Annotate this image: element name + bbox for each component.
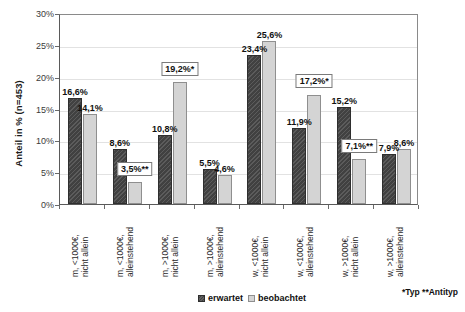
x-axis-label-line: w, >1000€, [341,236,351,277]
x-axis-category-label-1: m, <1000€,alleinstehend [116,227,135,277]
x-axis-tick-mark [104,205,105,209]
y-axis-tick-label: 20% [12,73,54,83]
gridline [60,47,417,48]
legend: erwartet beobachtet [198,293,306,303]
legend-swatch-erwartet-icon [198,295,205,302]
legend-label-beobachtet: beobachtet [258,293,306,303]
x-axis-category-label-4: w, <1000€,nicht allein [251,236,270,277]
x-axis-category-label-6: w, >1000€,nicht allein [341,236,360,277]
x-axis-tick-mark [239,205,240,209]
y-axis-tick-label: 30% [12,9,54,19]
y-axis-tick-label: 15% [12,105,54,115]
value-label-beobachtet-1: 3,5%** [117,162,153,176]
chart-footnote: *Typ **Antityp [402,287,458,297]
bar-erwartet-7 [382,154,396,204]
bar-erwartet-5 [292,128,306,204]
x-axis-label-line: nicht allein [81,234,91,277]
x-axis-label-line: nicht allein [350,236,360,277]
x-axis-label-line: nicht allein [171,234,181,277]
x-axis-label-line: w, >1000€, [386,227,396,277]
x-axis-category-label-5: w, <1000€,alleinstehend [296,227,315,277]
bar-chart: Anteil in % (n=453) 0%5%10%15%20%25%30% … [0,0,465,312]
bar-erwartet-4 [247,55,261,204]
legend-label-erwartet: erwartet [208,293,243,303]
x-axis-category-label-7: w, >1000€,alleinstehend [386,227,405,277]
bar-beobachtet-4 [262,41,276,204]
bar-erwartet-1 [113,149,127,204]
bar-erwartet-3 [203,169,217,204]
gridline [60,111,417,112]
x-axis-label-line: alleinstehend [305,227,315,277]
value-label-erwartet-1: 8,6% [110,138,131,148]
value-label-erwartet-4: 23,4% [242,44,268,54]
legend-item-beobachtet: beobachtet [248,293,306,303]
x-axis-label-line: w, <1000€, [251,236,261,277]
value-label-beobachtet-4: 25,6% [257,30,283,40]
y-axis-tick-label: 5% [12,168,54,178]
bar-beobachtet-0 [83,114,97,204]
x-axis-tick-mark [283,205,284,209]
bar-erwartet-0 [68,98,82,204]
x-axis-tick-mark [418,205,419,209]
value-label-erwartet-2: 10,8% [152,124,178,134]
bar-beobachtet-2 [173,82,187,204]
x-axis-label-line: alleinstehend [395,227,405,277]
x-axis-label-line: nicht allein [260,236,270,277]
y-axis-tick-label: 10% [12,136,54,146]
y-axis-tick-label: 0% [12,200,54,210]
value-label-beobachtet-7: 8,6% [394,138,415,148]
x-axis-label-line: w, <1000€, [296,227,306,277]
bar-beobachtet-3 [218,175,232,204]
value-label-erwartet-5: 11,9% [287,117,312,127]
y-axis-tick-label: 25% [12,41,54,51]
value-label-beobachtet-5: 17,2%* [296,74,333,88]
plot-area: 16,6%14,1%8,6%3,5%**10,8%19,2%*5,5%4,6%2… [59,14,418,205]
value-label-erwartet-6: 15,2% [331,96,357,106]
bar-beobachtet-5 [307,95,321,205]
value-label-beobachtet-2: 19,2%* [161,62,198,76]
value-label-erwartet-0: 16,6% [62,87,88,97]
value-label-beobachtet-0: 14,1% [77,103,103,113]
bar-beobachtet-1 [128,182,142,204]
x-axis-label-line: alleinstehend [126,227,136,277]
x-axis-label-line: alleinstehend [216,227,226,277]
x-axis-tick-mark [59,205,60,209]
x-axis-tick-mark [194,205,195,209]
bar-erwartet-2 [158,135,172,204]
gridline [60,79,417,80]
y-axis-title: Anteil in % (n=453) [13,44,24,204]
x-axis-category-label-3: m, >1000€,alleinstehend [206,227,225,277]
x-axis-tick-mark [328,205,329,209]
x-axis-category-label-0: m, <1000€,nicht allein [71,234,90,277]
bar-beobachtet-7 [397,149,411,204]
bar-erwartet-6 [337,107,351,204]
value-label-beobachtet-6: 7,1%** [341,139,377,153]
legend-swatch-beobachtet-icon [248,295,255,302]
x-axis-tick-mark [149,205,150,209]
x-axis-tick-mark [373,205,374,209]
x-axis-category-label-2: m, >1000€,nicht allein [161,234,180,277]
value-label-beobachtet-3: 4,6% [214,164,235,174]
bar-beobachtet-6 [352,159,366,204]
legend-item-erwartet: erwartet [198,293,243,303]
